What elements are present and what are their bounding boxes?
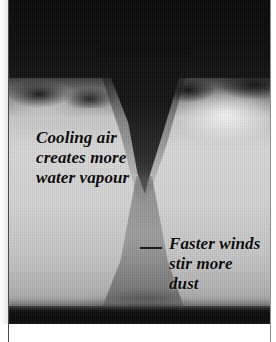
page-bottom-white-space [0, 324, 276, 342]
figure-page: Cooling air creates more water vapour Fa… [0, 0, 276, 342]
page-rule-right [270, 0, 271, 342]
page-rule-left [8, 0, 9, 342]
page-left-margin [0, 0, 8, 324]
annotation-leader-line [140, 247, 162, 249]
annotation-cooling-air: Cooling air creates more water vapour [36, 128, 129, 188]
ground-band [9, 306, 270, 324]
tornado-photograph: Cooling air creates more water vapour Fa… [9, 0, 270, 324]
annotation-faster-winds: Faster winds stir more dust [169, 234, 260, 294]
